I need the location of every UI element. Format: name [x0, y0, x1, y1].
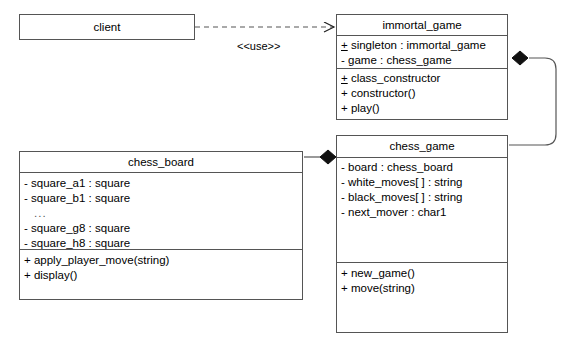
class-name-chess-game: chess_game [337, 141, 507, 153]
member-text: next_mover : char1 [348, 206, 446, 218]
immortal-game-composition-line [509, 58, 556, 145]
visibility-marker: - [24, 236, 28, 250]
client-title-compartment: client [20, 15, 194, 39]
visibility-marker: + [341, 38, 348, 53]
member-text: constructor() [351, 87, 416, 99]
operation-row: + new_game() [337, 266, 507, 281]
composition-diamond-immortal-game [512, 51, 528, 65]
class-name-immortal-game: immortal_game [337, 20, 507, 32]
attribute-ellipsis-row: ... [20, 206, 302, 221]
class-name-chess-board: chess_board [20, 157, 302, 169]
visibility-marker: - [341, 190, 345, 205]
operation-row: + apply_player_move(string) [20, 253, 302, 268]
member-text: apply_player_move(string) [34, 254, 170, 266]
attribute-row: - square_a1 : square [20, 176, 302, 191]
member-text: display() [34, 269, 77, 281]
member-text: white_moves[ ] : string [348, 176, 462, 188]
member-text: square_h8 : square [31, 237, 130, 249]
class-box-client[interactable]: client [19, 14, 195, 40]
class-box-immortal-game[interactable]: immortal_game + singleton : immortal_gam… [336, 14, 508, 120]
class-box-chess-board[interactable]: chess_board - square_a1 : square - squar… [19, 151, 303, 300]
member-text: black_moves[ ] : string [348, 191, 462, 203]
chess-board-operations-compartment: + apply_player_move(string) + display() [20, 250, 302, 299]
attribute-row: - square_h8 : square [20, 236, 302, 250]
attribute-row: - board : chess_board [337, 160, 507, 175]
member-text: ... [34, 207, 47, 219]
operation-row: + constructor() [337, 86, 507, 101]
visibility-marker: + [341, 86, 348, 101]
attribute-row: - next_mover : char1 [337, 205, 507, 220]
class-name-client: client [20, 22, 194, 34]
member-text: singleton : immortal_game [351, 39, 486, 51]
attribute-row: - black_moves[ ] : string [337, 190, 507, 205]
operation-row: + class_constructor [337, 71, 507, 86]
visibility-marker: - [24, 221, 28, 236]
uml-class-diagram: <<use>> client immortal_game + singleton… [0, 0, 568, 350]
composition-diamond-chess-game [320, 150, 336, 164]
operation-row: + move(string) [337, 281, 507, 296]
member-text: play() [351, 102, 380, 114]
member-text: square_g8 : square [31, 222, 130, 234]
member-text: square_b1 : square [31, 192, 130, 204]
visibility-marker: - [341, 160, 345, 175]
visibility-marker: + [341, 71, 348, 86]
member-text: board : chess_board [348, 161, 453, 173]
visibility-marker: + [341, 281, 348, 296]
attribute-row: - square_g8 : square [20, 221, 302, 236]
chess-game-attributes-compartment: - board : chess_board - white_moves[ ] :… [337, 158, 507, 263]
attribute-row: - square_b1 : square [20, 191, 302, 206]
visibility-marker: + [24, 253, 31, 268]
immortal-game-attributes-compartment: + singleton : immortal_game - game : che… [337, 36, 507, 69]
immortal-game-operations-compartment: + class_constructor + constructor() + pl… [337, 69, 507, 119]
member-text: class_constructor [351, 72, 440, 84]
attribute-row: + singleton : immortal_game [337, 38, 507, 53]
chess-board-attributes-compartment: - square_a1 : square - square_b1 : squar… [20, 173, 302, 250]
operation-row: + play() [337, 101, 507, 116]
visibility-marker: + [24, 268, 31, 283]
visibility-marker: - [341, 53, 345, 68]
member-text: new_game() [351, 267, 415, 279]
member-text: square_a1 : square [31, 177, 130, 189]
attribute-row: - white_moves[ ] : string [337, 175, 507, 190]
visibility-marker: - [24, 176, 28, 191]
member-text: move(string) [351, 282, 415, 294]
chess-game-title-compartment: chess_game [337, 136, 507, 158]
operation-row: + display() [20, 268, 302, 283]
visibility-marker: + [341, 101, 348, 116]
visibility-marker: + [341, 266, 348, 281]
chess-board-title-compartment: chess_board [20, 152, 302, 173]
chess-game-operations-compartment: + new_game() + move(string) [337, 263, 507, 334]
visibility-marker: - [341, 205, 345, 220]
visibility-marker: - [341, 175, 345, 190]
use-dependency-label: <<use>> [237, 40, 280, 52]
member-text: game : chess_game [348, 54, 452, 66]
class-box-chess-game[interactable]: chess_game - board : chess_board - white… [336, 135, 508, 333]
immortal-game-title-compartment: immortal_game [337, 15, 507, 36]
attribute-row: - game : chess_game [337, 53, 507, 68]
visibility-marker: - [24, 191, 28, 206]
